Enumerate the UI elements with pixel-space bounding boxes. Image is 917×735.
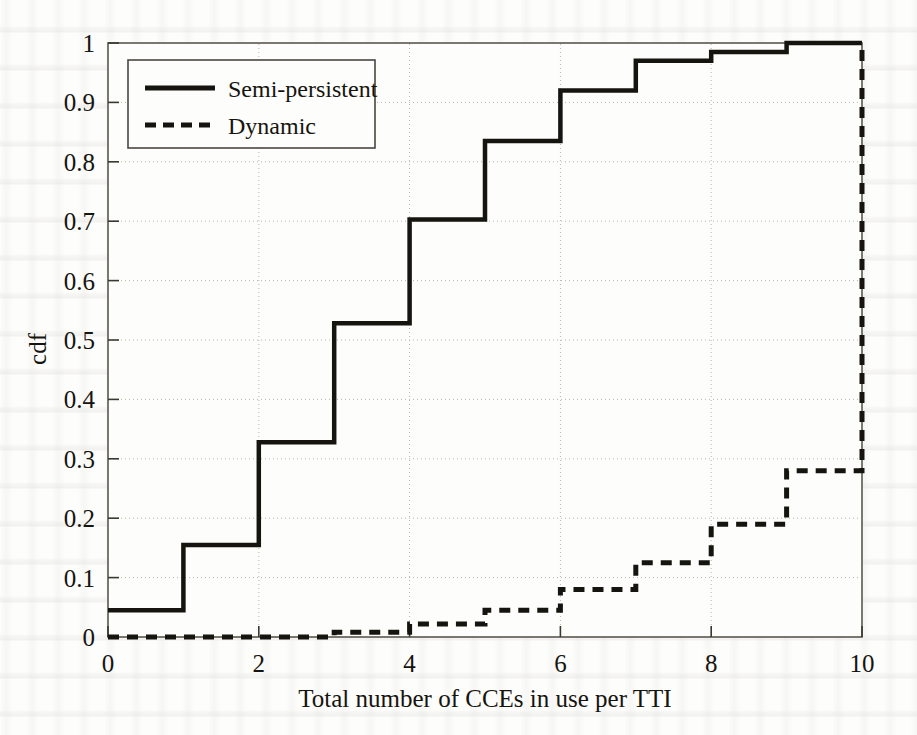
y-tick-label: 0.4 (64, 386, 96, 413)
y-tick-label: 0.8 (64, 149, 95, 176)
x-tick-label: 6 (554, 650, 567, 677)
legend-label-dynamic: Dynamic (228, 113, 316, 139)
cdf-chart-figure: 00.10.20.30.40.50.60.70.80.91 0246810 To… (0, 0, 917, 735)
legend-label-semi-persistent: Semi-persistent (228, 76, 378, 102)
y-axis-title: cdf (24, 332, 51, 365)
y-tick-label: 0.2 (64, 505, 95, 532)
x-tick-label: 0 (102, 650, 115, 677)
y-tick-label: 0 (83, 624, 96, 651)
x-tick-label: 8 (705, 650, 718, 677)
chart-legend: Semi-persistent Dynamic (128, 60, 378, 148)
x-tick-label: 10 (850, 650, 875, 677)
x-axis-tick-labels: 0246810 (102, 650, 875, 677)
y-tick-label: 0.6 (64, 268, 95, 295)
x-axis-title: Total number of CCEs in use per TTI (298, 685, 671, 712)
y-axis-tick-labels: 00.10.20.30.40.50.60.70.80.91 (64, 30, 96, 651)
y-tick-label: 0.9 (64, 89, 95, 116)
y-tick-label: 0.5 (64, 327, 95, 354)
y-tick-label: 1 (83, 30, 96, 57)
y-tick-label: 0.1 (64, 565, 95, 592)
x-tick-label: 2 (253, 650, 266, 677)
x-tick-label: 4 (403, 650, 416, 677)
y-tick-label: 0.7 (64, 208, 95, 235)
chart-svg: 00.10.20.30.40.50.60.70.80.91 0246810 To… (0, 0, 917, 735)
y-tick-label: 0.3 (64, 446, 95, 473)
